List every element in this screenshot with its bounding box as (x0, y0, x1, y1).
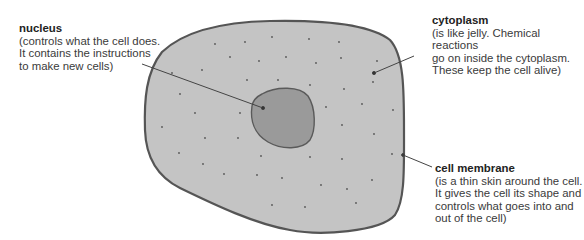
nucleus-label: nucleus (controls what the cell does. It… (19, 22, 189, 72)
cytoplasm-label: cytoplasm (is like jelly. Chemical react… (432, 14, 584, 77)
cell-membrane-label-title: cell membrane (435, 162, 584, 175)
nucleus-label-description: (controls what the cell does. It contain… (19, 35, 189, 73)
cytoplasm-label-description: (is like jelly. Chemical reactions go on… (432, 27, 584, 77)
cell-membrane-label: cell membrane (is a thin skin around the… (435, 162, 584, 225)
membrane-leader-line (403, 155, 432, 167)
cytoplasm-label-title: cytoplasm (432, 14, 584, 27)
nucleus-label-title: nucleus (19, 22, 189, 35)
cell-membrane-label-description: (is a thin skin around the cell. It give… (435, 175, 584, 225)
